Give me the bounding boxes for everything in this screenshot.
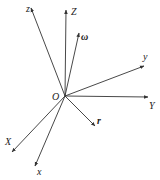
vector-omega-label: ω [81, 31, 88, 42]
vector-X-label: X [4, 136, 12, 147]
vector-X-arrow [12, 96, 65, 152]
vector-y-label: y [142, 51, 148, 62]
vector-omega-arrow [65, 33, 79, 96]
vector-Y-label: Y [149, 100, 156, 111]
vector-r-arrow [65, 96, 95, 126]
origin-label: O [52, 91, 59, 102]
vector-r-label: r [97, 115, 101, 126]
vector-x-label: x [36, 166, 42, 177]
vector-z-label: z [25, 3, 30, 14]
coordinate-diagram: zZωyYrXx O [0, 0, 160, 180]
vector-z-arrow [31, 8, 65, 96]
vector-Z-arrow [65, 10, 66, 96]
vector-x-arrow [35, 96, 65, 166]
vector-Z-label: Z [71, 6, 77, 17]
vector-Y-arrow [65, 96, 148, 97]
vector-y-arrow [65, 66, 144, 96]
